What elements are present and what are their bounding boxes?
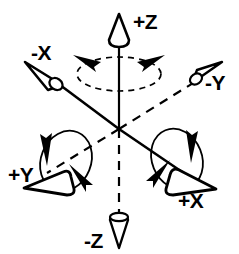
axis-label-z-positive: +Z	[133, 10, 158, 33]
axis-orientation-diagram: +Z -Z -X +X -Y +Y	[0, 0, 239, 254]
cone-body-z-positive	[109, 14, 129, 47]
axis-line-y-negative	[119, 80, 198, 129]
arrow-cone-z-positive	[109, 14, 129, 47]
arrow-cone-z-negative	[110, 213, 128, 248]
rotation-arrowhead-z-right	[137, 55, 165, 72]
axis-label-x-positive: +X	[178, 189, 204, 212]
axes-svg: +Z -Z -X +X -Y +Y	[0, 0, 239, 254]
axis-label-x-negative: -X	[31, 41, 51, 64]
axis-label-y-positive: +Y	[8, 163, 34, 186]
rotation-arrowhead-y-top	[40, 133, 52, 166]
cone-base-ellipse-z-negative	[110, 213, 128, 221]
axis-label-z-negative: -Z	[84, 229, 103, 252]
rotation-arrowhead-z-left	[73, 55, 101, 72]
rotation-arrowhead-x-top	[186, 130, 198, 163]
arrow-cone-x-negative	[25, 62, 65, 93]
axis-label-y-negative: -Y	[205, 71, 225, 94]
